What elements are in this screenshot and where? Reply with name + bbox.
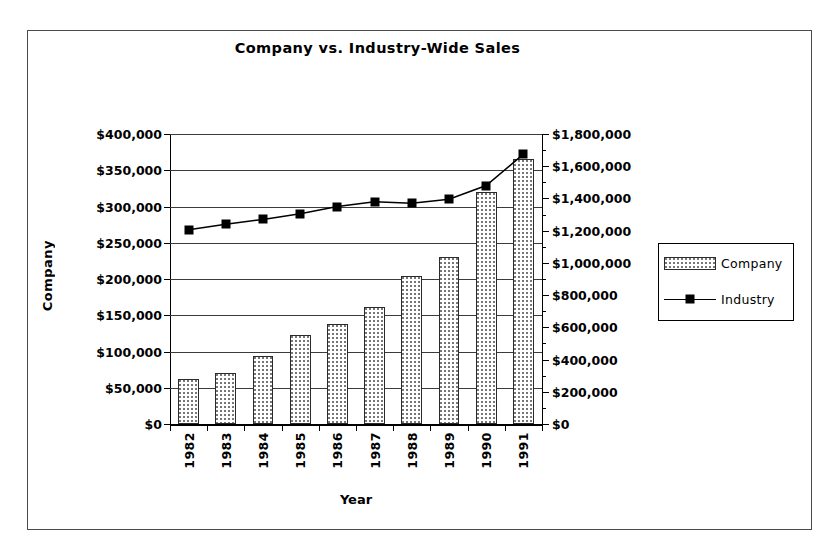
y-tick-label-left: $250,000 <box>96 235 162 250</box>
tick-right <box>542 424 549 425</box>
y-axis-title-left: Company <box>40 240 55 311</box>
tick-x <box>468 424 469 431</box>
x-tick-label-1990: 1990 <box>479 432 494 469</box>
y-tick-label-right: $1,000,000 <box>552 255 631 270</box>
tick-right <box>542 198 549 199</box>
tick-x <box>393 424 394 431</box>
marker-industry-1986 <box>333 202 342 211</box>
x-tick-label-1991: 1991 <box>516 432 531 469</box>
y-tick-label-right: $200,000 <box>552 384 618 399</box>
x-tick-label-1983: 1983 <box>219 432 234 469</box>
x-tick-label-1986: 1986 <box>330 432 345 469</box>
tick-x <box>244 424 245 431</box>
tick-right-minor <box>542 150 546 151</box>
marker-industry-1989 <box>445 195 454 204</box>
tick-right <box>542 263 549 264</box>
marker-industry-1987 <box>370 197 379 206</box>
y-axis-tick-labels-right: $0$200,000$400,000$600,000$800,000$1,000… <box>552 134 662 424</box>
tick-right <box>542 327 549 328</box>
line-series-industry <box>170 134 542 424</box>
tick-x <box>542 424 543 431</box>
marker-industry-1983 <box>221 220 230 229</box>
plot-area <box>170 134 542 424</box>
bar-swatch-icon <box>664 257 716 270</box>
y-tick-label-right: $600,000 <box>552 320 618 335</box>
legend-swatch-company <box>659 250 721 276</box>
tick-right-minor <box>542 311 546 312</box>
y-tick-label-left: $100,000 <box>96 344 162 359</box>
y-tick-label-right: $1,600,000 <box>552 159 631 174</box>
tick-right <box>542 360 549 361</box>
tick-right-minor <box>542 376 546 377</box>
line-marker-swatch-icon <box>664 293 716 306</box>
chart-title: Company vs. Industry-Wide Sales <box>0 40 835 56</box>
industry-line-path <box>189 154 524 230</box>
marker-industry-1984 <box>259 215 268 224</box>
marker-industry-1991 <box>519 150 528 159</box>
tick-x <box>282 424 283 431</box>
y-tick-label-right: $1,200,000 <box>552 223 631 238</box>
tick-right-minor <box>542 215 546 216</box>
y-tick-label-left: $200,000 <box>96 272 162 287</box>
legend-label-industry: Industry <box>721 292 775 307</box>
y-tick-label-right: $400,000 <box>552 352 618 367</box>
legend-label-company: Company <box>721 256 783 271</box>
y-tick-label-left: $150,000 <box>96 308 162 323</box>
y-tick-label-left: $300,000 <box>96 199 162 214</box>
tick-right-minor <box>542 247 546 248</box>
y-tick-label-right: $0 <box>552 417 569 432</box>
legend-item-industry: Industry <box>659 286 793 312</box>
tick-right-minor <box>542 343 546 344</box>
tick-x <box>505 424 506 431</box>
tick-right <box>542 166 549 167</box>
x-axis-tick-labels: 1982198319841985198619871988198919901991 <box>170 432 542 482</box>
x-tick-label-1982: 1982 <box>182 432 197 469</box>
chart-legend: Company Industry <box>658 243 794 321</box>
x-tick-label-1988: 1988 <box>405 432 420 469</box>
tick-right-minor <box>542 279 546 280</box>
marker-industry-1982 <box>184 225 193 234</box>
x-tick-label-1987: 1987 <box>368 432 383 469</box>
x-axis-title: Year <box>170 492 542 507</box>
tick-x <box>356 424 357 431</box>
x-tick-label-1985: 1985 <box>293 432 308 469</box>
tick-right-minor <box>542 408 546 409</box>
marker-industry-1985 <box>296 209 305 218</box>
x-tick-label-1984: 1984 <box>256 432 271 469</box>
tick-right <box>542 134 549 135</box>
y-tick-label-right: $1,800,000 <box>552 127 631 142</box>
tick-right <box>542 231 549 232</box>
legend-swatch-industry <box>659 286 721 312</box>
y-tick-label-left: $50,000 <box>105 380 162 395</box>
tick-x <box>170 424 171 431</box>
tick-x <box>430 424 431 431</box>
marker-industry-1990 <box>482 181 491 190</box>
y-tick-label-right: $800,000 <box>552 288 618 303</box>
y-tick-label-left: $0 <box>145 417 162 432</box>
tick-x <box>319 424 320 431</box>
tick-right-minor <box>542 182 546 183</box>
chart-title-text: Company vs. Industry-Wide Sales <box>235 40 521 56</box>
tick-x <box>207 424 208 431</box>
x-tick-label-1989: 1989 <box>442 432 457 469</box>
tick-right <box>542 295 549 296</box>
marker-industry-1988 <box>407 199 416 208</box>
y-tick-label-left: $400,000 <box>96 127 162 142</box>
tick-right <box>542 392 549 393</box>
legend-item-company: Company <box>659 250 793 276</box>
y-tick-label-right: $1,400,000 <box>552 191 631 206</box>
y-tick-label-left: $350,000 <box>96 163 162 178</box>
y-axis-tick-labels-left: $0$50,000$100,000$150,000$200,000$250,00… <box>60 134 162 424</box>
